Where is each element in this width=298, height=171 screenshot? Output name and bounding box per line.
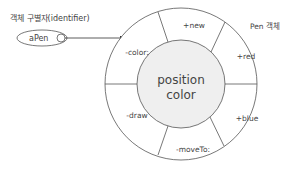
method-red: +red: [237, 52, 256, 61]
identifier-name: aPen: [29, 34, 48, 43]
object-label: Pen 객체: [250, 21, 280, 31]
method-color: -color:: [125, 48, 149, 57]
state-position: position: [157, 73, 205, 87]
state-color: color: [166, 88, 196, 102]
reference-dot-icon: [57, 34, 65, 42]
object-diagram: 객체 구별자(identifier) aPen Pen 객체 position …: [0, 0, 298, 171]
method-blue: +blue: [236, 114, 259, 123]
identifier-label: 객체 구별자(identifier): [10, 13, 90, 23]
method-moveto: -moveTo:: [176, 145, 210, 154]
method-new: +new: [183, 21, 205, 30]
method-draw: -draw: [126, 111, 147, 120]
